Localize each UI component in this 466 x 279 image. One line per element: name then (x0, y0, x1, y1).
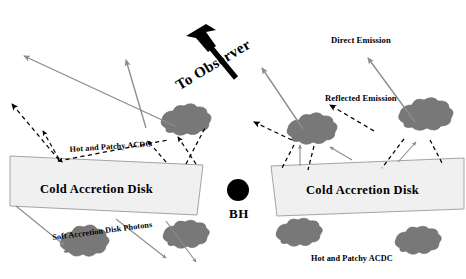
hot-patchy-acdc-label-right: Hot and Patchy ACDC (311, 255, 393, 263)
solid-gray-arrow-icon (126, 60, 146, 128)
corona-blob-icon (399, 98, 453, 131)
dashed-black-arrow-icon (12, 104, 59, 160)
dashed-black-arrow-icon (254, 122, 292, 140)
cold-accretion-disk-label-right: Cold Accretion Disk (306, 184, 419, 197)
corona-blob-icon (395, 226, 441, 254)
dashed-black-arrow-icon (282, 145, 294, 168)
accretion-disk-corona-diagram: To Observer Direct Emission Reflected Em… (0, 0, 466, 279)
reflected-emission-label: Reflected Emission (325, 94, 397, 103)
corona-blob-icon (276, 218, 322, 246)
cold-accretion-disk-label-left: Cold Accretion Disk (40, 183, 153, 196)
black-hole-circle-icon (227, 179, 249, 201)
black-hole-label: BH (229, 207, 249, 220)
corona-blob-icon (163, 220, 209, 248)
solid-gray-arrow-icon (368, 58, 415, 122)
solid-gray-arrow-icon (330, 147, 352, 160)
solid-gray-arrow-icon (262, 68, 303, 129)
direct-emission-label: Direct Emission (331, 36, 391, 45)
